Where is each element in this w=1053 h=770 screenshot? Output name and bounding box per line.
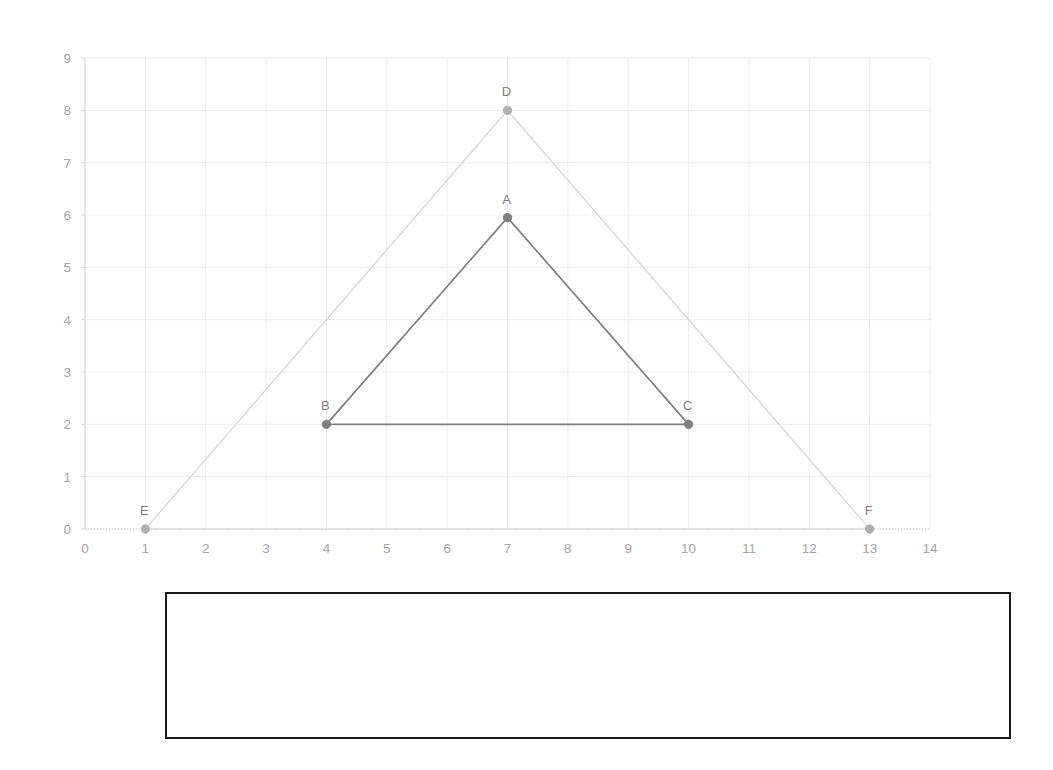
x-tick-label: 3 [262,541,270,556]
point-label-E: E [140,503,149,518]
y-tick-label: 7 [63,156,71,171]
x-tick-label: 9 [624,541,632,556]
data-point-marker-E [141,525,149,533]
point-label-C: C [683,398,692,413]
note-box [165,592,1011,739]
y-tick-label: 8 [63,103,71,118]
axis-lines [81,58,930,529]
x-tick-label: 1 [142,541,150,556]
data-point-marker-F [865,525,873,533]
gridlines [85,58,930,529]
x-tick-label: 10 [681,541,696,556]
y-tick-label: 5 [63,260,71,275]
x-tick-label: 4 [323,541,331,556]
x-tick-label: 2 [202,541,210,556]
point-labels: DEFABC [140,84,873,518]
data-point-marker-C [684,420,692,428]
y-tick-label: 4 [63,313,71,328]
chart-figure: DEFABC 01234567891011121314 0123456789 [0,0,1053,575]
y-axis-tick-labels: 0123456789 [63,51,71,537]
data-point-marker-B [322,420,330,428]
y-tick-label: 9 [63,51,71,66]
coordinate-plane-chart: DEFABC 01234567891011121314 0123456789 [0,0,1053,575]
point-label-D: D [502,84,511,99]
point-label-A: A [502,192,511,207]
x-tick-label: 8 [564,541,572,556]
x-tick-label: 11 [742,541,756,556]
page-root: DEFABC 01234567891011121314 0123456789 [0,0,1053,770]
x-tick-label: 14 [922,541,938,556]
x-axis-tick-labels: 01234567891011121314 [81,541,938,556]
x-tick-label: 12 [802,541,817,556]
x-tick-label: 13 [862,541,877,556]
x-tick-label: 5 [383,541,391,556]
x-tick-label: 7 [504,541,512,556]
x-tick-label: 6 [443,541,451,556]
x-tick-label: 0 [81,541,89,556]
y-tick-label: 0 [63,522,71,537]
y-tick-label: 3 [63,365,71,380]
y-tick-label: 2 [63,417,71,432]
y-tick-label: 1 [63,470,71,485]
point-label-B: B [321,398,330,413]
y-tick-label: 6 [63,208,71,223]
data-point-marker-A [503,213,511,221]
point-label-F: F [865,503,873,518]
data-point-marker-D [503,106,511,114]
